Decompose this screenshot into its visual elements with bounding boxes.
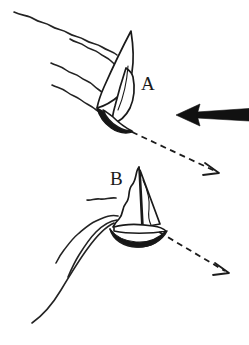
- course-arrow-b: [159, 232, 229, 275]
- wind-arrow-shaft: [197, 109, 249, 122]
- wave-line-b1: [87, 198, 116, 200]
- sailboat-diagram: A: [0, 0, 249, 345]
- wind-direction-arrow: [176, 104, 249, 126]
- wave-line-a1: [14, 12, 117, 55]
- boat-b-label: B: [110, 168, 123, 189]
- course-arrow-a-line: [132, 132, 215, 171]
- wave-line-a3: [51, 63, 104, 94]
- boat-a-group: A: [97, 31, 155, 133]
- boat-a-label: A: [141, 73, 155, 94]
- boat-b-group: B: [110, 167, 167, 247]
- boat-b-jib: [140, 170, 160, 227]
- diagram-canvas: A: [0, 0, 249, 345]
- flow-lines-boat-b: [32, 198, 118, 323]
- course-arrow-b-line: [159, 232, 225, 271]
- boat-b-deck: [114, 225, 166, 234]
- wind-arrow-head-icon: [176, 104, 200, 126]
- course-arrow-a: [132, 132, 219, 175]
